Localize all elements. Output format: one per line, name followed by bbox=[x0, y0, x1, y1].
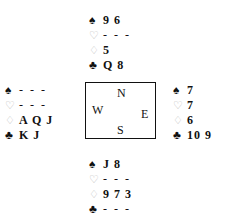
south-spades-row: ♠ J 8 bbox=[89, 157, 132, 172]
club-icon: ♣ bbox=[89, 58, 103, 73]
west-hearts-cards: - - - bbox=[19, 98, 47, 113]
north-hand: ♠ 9 6 ♡ - - - ♢ 5 ♣ Q 8 bbox=[89, 13, 131, 73]
east-hearts-cards: 7 bbox=[187, 98, 194, 113]
spade-icon: ♠ bbox=[89, 157, 103, 172]
west-diamonds-cards: A Q J bbox=[19, 113, 53, 128]
north-clubs-row: ♣ Q 8 bbox=[89, 58, 131, 73]
diamond-icon: ♢ bbox=[5, 113, 19, 128]
compass-west-label: W bbox=[92, 103, 103, 118]
north-diamonds-row: ♢ 5 bbox=[89, 43, 131, 58]
compass-north-label: N bbox=[117, 86, 126, 101]
east-hearts-row: ♡ 7 bbox=[173, 98, 212, 113]
east-spades-cards: 7 bbox=[187, 83, 194, 98]
east-clubs-cards: 10 9 bbox=[187, 128, 212, 143]
north-clubs-cards: Q 8 bbox=[103, 58, 124, 73]
west-diamonds-row: ♢ A Q J bbox=[5, 113, 53, 128]
club-icon: ♣ bbox=[5, 128, 19, 143]
north-diamonds-cards: 5 bbox=[103, 43, 110, 58]
heart-icon: ♡ bbox=[89, 172, 103, 187]
east-diamonds-cards: 6 bbox=[187, 113, 194, 128]
south-hearts-cards: - - - bbox=[103, 172, 131, 187]
heart-icon: ♡ bbox=[173, 98, 187, 113]
heart-icon: ♡ bbox=[5, 98, 19, 113]
south-diamonds-cards: 9 7 3 bbox=[103, 187, 132, 202]
south-hand: ♠ J 8 ♡ - - - ♢ 9 7 3 ♣ - - - bbox=[89, 157, 132, 217]
east-hand: ♠ 7 ♡ 7 ♢ 6 ♣ 10 9 bbox=[173, 83, 212, 143]
heart-icon: ♡ bbox=[89, 28, 103, 43]
west-clubs-row: ♣ K J bbox=[5, 128, 53, 143]
north-hearts-cards: - - - bbox=[103, 28, 131, 43]
south-spades-cards: J 8 bbox=[103, 157, 121, 172]
west-hand: ♠ - - - ♡ - - - ♢ A Q J ♣ K J bbox=[5, 83, 53, 143]
compass-east-label: E bbox=[141, 107, 148, 122]
club-icon: ♣ bbox=[173, 128, 187, 143]
spade-icon: ♠ bbox=[5, 83, 19, 98]
south-diamonds-row: ♢ 9 7 3 bbox=[89, 187, 132, 202]
diamond-icon: ♢ bbox=[89, 187, 103, 202]
north-hearts-row: ♡ - - - bbox=[89, 28, 131, 43]
west-clubs-cards: K J bbox=[19, 128, 40, 143]
south-clubs-row: ♣ - - - bbox=[89, 202, 132, 217]
west-spades-cards: - - - bbox=[19, 83, 47, 98]
spade-icon: ♠ bbox=[173, 83, 187, 98]
compass-box: N W E S bbox=[85, 82, 156, 139]
south-clubs-cards: - - - bbox=[103, 202, 131, 217]
north-spades-cards: 9 6 bbox=[103, 13, 121, 28]
west-spades-row: ♠ - - - bbox=[5, 83, 53, 98]
diamond-icon: ♢ bbox=[89, 43, 103, 58]
south-hearts-row: ♡ - - - bbox=[89, 172, 132, 187]
north-spades-row: ♠ 9 6 bbox=[89, 13, 131, 28]
east-clubs-row: ♣ 10 9 bbox=[173, 128, 212, 143]
club-icon: ♣ bbox=[89, 202, 103, 217]
compass-south-label: S bbox=[117, 123, 124, 138]
east-diamonds-row: ♢ 6 bbox=[173, 113, 212, 128]
spade-icon: ♠ bbox=[89, 13, 103, 28]
west-hearts-row: ♡ - - - bbox=[5, 98, 53, 113]
diamond-icon: ♢ bbox=[173, 113, 187, 128]
east-spades-row: ♠ 7 bbox=[173, 83, 212, 98]
